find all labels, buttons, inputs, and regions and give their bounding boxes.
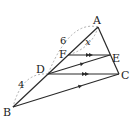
measure-AD: 6 — [60, 35, 66, 46]
segment-AC — [98, 27, 119, 74]
label-D: D — [36, 63, 45, 76]
geometry-diagram: A B C D E F 6 4 x — [0, 0, 137, 120]
measure-DB: 4 — [18, 79, 24, 90]
double-arrow-DC-icon — [82, 72, 89, 76]
label-E: E — [112, 52, 120, 65]
measure-AF: x — [85, 36, 91, 47]
double-arrow-FE-icon — [86, 53, 93, 57]
label-F: F — [59, 48, 67, 61]
label-B: B — [3, 106, 11, 119]
label-A: A — [92, 14, 102, 27]
label-C: C — [121, 69, 129, 82]
